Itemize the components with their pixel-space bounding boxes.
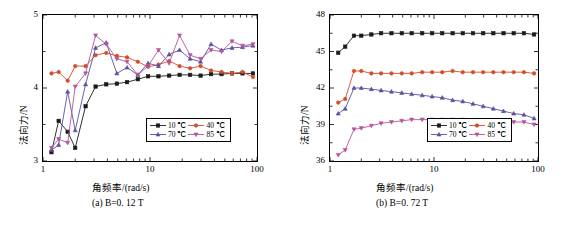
y-tick-label: 39 [311,119,325,129]
legend-label: 85 ℃ [487,130,507,139]
legend-marker [431,130,449,139]
x-tick-label: 1 [318,164,342,174]
y-tick-label: 42 [311,82,325,92]
legend-marker [150,130,168,139]
legend-a: 10 ℃40 ℃70 ℃85 ℃ [146,118,231,142]
figure-root: 法向力/N 角频率/(rad/s) (a) B=0. 12 T 10 ℃40 ℃… [0,0,562,236]
legend-label: 40 ℃ [487,121,507,130]
legend-marker [469,121,487,130]
y-tick-label: 45 [311,46,325,56]
legend-label: 70 ℃ [449,130,469,139]
x-tick-label: 10 [138,164,162,174]
legend-marker [469,130,487,139]
legend-label: 70 ℃ [168,130,188,139]
legend-label: 10 ℃ [168,121,188,130]
y-axis-label-a: 法向力/N [16,106,30,146]
legend-marker [188,121,206,130]
chart-panel-b: 法向力/N 角频率/(rad/s) (b) B=0. 72 T 10 ℃40 ℃… [281,0,562,236]
x-tick-label: 100 [526,164,550,174]
legend-marker [150,121,168,130]
legend-b: 10 ℃40 ℃70 ℃85 ℃ [427,118,512,142]
legend-marker [431,121,449,130]
y-tick-label: 48 [311,9,325,19]
legend-label: 10 ℃ [449,121,469,130]
y-tick-label: 4 [28,82,38,92]
legend-label: 40 ℃ [206,121,226,130]
y-tick-label: 5 [28,9,38,19]
y-axis-label-b: 法向力/N [297,106,311,146]
legend-label: 85 ℃ [206,130,226,139]
chart-panel-a: 法向力/N 角频率/(rad/s) (a) B=0. 12 T 10 ℃40 ℃… [0,0,281,236]
panel-a-caption: (a) B=0. 12 T [92,198,144,208]
x-axis-label-b: 角频率/(rad/s) [376,180,433,194]
x-axis-label-a: 角频率/(rad/s) [92,180,149,194]
x-tick-label: 100 [245,164,269,174]
x-tick-label: 10 [422,164,446,174]
legend-marker [188,130,206,139]
panel-b-caption: (b) B=0. 72 T [376,198,428,208]
x-tick-label: 1 [31,164,55,174]
